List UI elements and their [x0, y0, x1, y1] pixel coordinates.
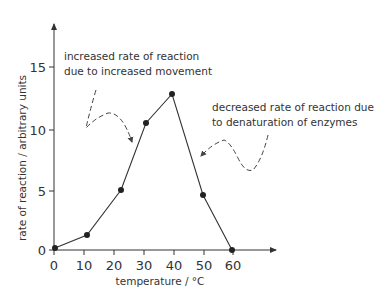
y-ticks — [49, 67, 54, 250]
data-point — [84, 232, 90, 238]
y-axis-label: rate of reaction / arbitrary units — [16, 75, 28, 241]
data-line — [55, 94, 232, 250]
data-point — [200, 192, 206, 198]
x-ticks — [54, 250, 233, 255]
annotation-increase: increased rate of reaction due to increa… — [64, 50, 212, 142]
y-tick-label: 5 — [38, 184, 46, 199]
data-point — [143, 120, 149, 126]
data-points — [52, 91, 235, 253]
data-point — [118, 187, 124, 193]
x-tick-label: 60 — [225, 258, 242, 273]
y-tick-label: 15 — [29, 60, 46, 75]
dashed-arrow-icon — [201, 135, 268, 171]
annotation-text-line: increased rate of reaction — [64, 50, 199, 62]
x-tick-label: 20 — [106, 258, 123, 273]
x-tick-label: 40 — [166, 258, 183, 273]
y-tick-label: 0 — [38, 243, 46, 258]
annotation-text-line: decreased rate of reaction due — [212, 101, 374, 113]
x-tick-label: 50 — [196, 258, 213, 273]
x-axis-label: temperature / °C — [116, 275, 205, 287]
x-tick-label: 30 — [136, 258, 153, 273]
dashed-arrow-icon — [86, 90, 132, 142]
data-point — [229, 247, 235, 253]
annotation-text-line: due to increased movement — [64, 65, 212, 77]
annotation-decrease: decreased rate of reaction due to denatu… — [201, 101, 374, 171]
data-point — [169, 91, 175, 97]
x-tick-label: 10 — [76, 258, 93, 273]
y-tick-label: 10 — [29, 123, 46, 138]
x-tick-labels: 0 10 20 30 40 50 60 — [50, 258, 241, 273]
line-chart: 0 5 10 15 0 10 20 30 40 50 60 temperatur… — [0, 0, 391, 300]
x-tick-label: 0 — [50, 258, 58, 273]
annotation-text-line: to denaturation of enzymes — [212, 116, 358, 128]
data-point — [52, 245, 58, 251]
y-tick-labels: 0 5 10 15 — [29, 60, 46, 258]
